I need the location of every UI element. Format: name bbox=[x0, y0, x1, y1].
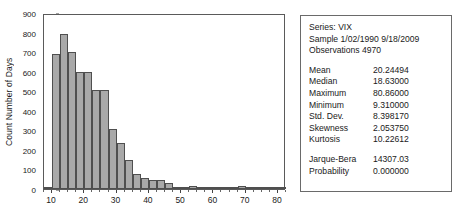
x-tick-mark bbox=[212, 190, 213, 193]
histogram-bar bbox=[52, 54, 60, 189]
y-tick-label: 100 bbox=[23, 166, 36, 175]
stat-value: 2.053750 bbox=[373, 123, 451, 135]
histogram-bar bbox=[100, 90, 108, 189]
x-tick-minor-mark bbox=[124, 190, 125, 192]
stat-value: 18.63000 bbox=[373, 76, 451, 88]
statistic-row: Minimum9.310000 bbox=[309, 100, 451, 112]
x-tick-minor-mark bbox=[75, 190, 76, 192]
histogram-figure: Count Number of Days 0100200300400500600… bbox=[0, 0, 460, 219]
chart-area: Count Number of Days 0100200300400500600… bbox=[0, 0, 292, 219]
series-label: Series: VIX bbox=[309, 22, 451, 34]
histogram-bar bbox=[230, 187, 238, 189]
y-tick-label: 0 bbox=[32, 186, 36, 195]
y-tick-label: 500 bbox=[23, 88, 36, 97]
spacer bbox=[309, 57, 451, 65]
spacer bbox=[309, 146, 451, 154]
x-tick-label: 20 bbox=[79, 195, 88, 205]
statistic-row: Skewness2.053750 bbox=[309, 123, 451, 135]
stat-key: Jarque-Bera bbox=[309, 154, 373, 166]
x-tick-minor-mark bbox=[253, 190, 254, 192]
x-tick-minor-mark bbox=[229, 190, 230, 192]
x-tick-label: 30 bbox=[111, 195, 120, 205]
histogram-bar bbox=[213, 187, 221, 189]
y-tick-label: 700 bbox=[23, 49, 36, 58]
histogram-bar bbox=[181, 187, 189, 189]
x-tick-label: 50 bbox=[175, 195, 184, 205]
histogram-bar bbox=[278, 187, 286, 189]
x-tick-label: 60 bbox=[208, 195, 217, 205]
y-tick-label: 300 bbox=[23, 127, 36, 136]
histogram-bar bbox=[197, 187, 205, 189]
stat-key: Kurtosis bbox=[309, 134, 373, 146]
y-tick-label: 200 bbox=[23, 146, 36, 155]
histogram-bar bbox=[165, 183, 173, 189]
stat-key: Median bbox=[309, 76, 373, 88]
x-tick-minor-mark bbox=[285, 190, 286, 192]
histogram-bar bbox=[262, 187, 270, 189]
x-tick-label: 10 bbox=[46, 195, 55, 205]
x-tick-minor-mark bbox=[99, 190, 100, 192]
histogram-bar bbox=[254, 187, 262, 189]
y-axis-label: Count Number of Days bbox=[2, 14, 16, 189]
x-tick-mark bbox=[116, 190, 117, 193]
test-statistic-row: Probability0.000000 bbox=[309, 166, 451, 178]
x-tick-minor-mark bbox=[164, 190, 165, 192]
stat-key: Probability bbox=[309, 166, 373, 178]
histogram-bar bbox=[221, 187, 229, 189]
x-tick-mark bbox=[148, 190, 149, 193]
x-tick-mark bbox=[180, 190, 181, 193]
x-tick-minor-mark bbox=[204, 190, 205, 192]
histogram-bar bbox=[141, 178, 149, 189]
y-tick-label: 400 bbox=[23, 107, 36, 116]
x-tick-minor-mark bbox=[43, 190, 44, 192]
x-tick-mark bbox=[245, 190, 246, 193]
test-statistic-row: Jarque-Bera14307.03 bbox=[309, 154, 451, 166]
x-tick-label: 70 bbox=[240, 195, 249, 205]
statistic-row: Std. Dev.8.398170 bbox=[309, 111, 451, 123]
histogram-bar bbox=[205, 187, 213, 189]
x-axis-ticks: 1020304050607080 bbox=[43, 190, 287, 216]
x-tick-minor-mark bbox=[108, 190, 109, 192]
stat-value: 20.24494 bbox=[373, 65, 451, 77]
histogram-bar bbox=[173, 187, 181, 189]
observations-label: Observations 4970 bbox=[309, 45, 451, 57]
x-tick-minor-mark bbox=[237, 190, 238, 192]
histogram-bars bbox=[44, 15, 284, 189]
statistic-row: Maximum80.86000 bbox=[309, 88, 451, 100]
stat-value: 80.86000 bbox=[373, 88, 451, 100]
histogram-bar bbox=[76, 72, 84, 189]
histogram-bar bbox=[92, 90, 100, 189]
statistic-row: Kurtosis10.22612 bbox=[309, 134, 451, 146]
x-tick-mark bbox=[83, 190, 84, 193]
histogram-bar bbox=[157, 180, 165, 189]
plot-frame bbox=[43, 14, 285, 190]
histogram-bar bbox=[189, 186, 197, 189]
stat-key: Std. Dev. bbox=[309, 111, 373, 123]
histogram-bar bbox=[125, 160, 133, 189]
statistic-row: Median18.63000 bbox=[309, 76, 451, 88]
stat-value: 9.310000 bbox=[373, 100, 451, 112]
histogram-bar bbox=[60, 34, 68, 189]
histogram-bar bbox=[117, 143, 125, 189]
stat-value: 0.000000 bbox=[373, 166, 451, 178]
x-tick-label: 80 bbox=[272, 195, 281, 205]
histogram-bar bbox=[270, 187, 278, 189]
stat-key: Mean bbox=[309, 65, 373, 77]
stat-key: Skewness bbox=[309, 123, 373, 135]
x-tick-mark bbox=[277, 190, 278, 193]
x-tick-minor-mark bbox=[172, 190, 173, 192]
x-tick-minor-mark bbox=[91, 190, 92, 192]
statistics-panel: Series: VIX Sample 1/02/1990 9/18/2009 O… bbox=[300, 15, 452, 192]
x-tick-minor-mark bbox=[140, 190, 141, 192]
histogram-bar bbox=[246, 187, 254, 189]
stat-value: 10.22612 bbox=[373, 134, 451, 146]
statistic-row: Mean20.24494 bbox=[309, 65, 451, 77]
x-tick-minor-mark bbox=[220, 190, 221, 192]
x-tick-minor-mark bbox=[188, 190, 189, 192]
x-tick-minor-mark bbox=[59, 190, 60, 192]
x-tick-minor-mark bbox=[67, 190, 68, 192]
histogram-bar bbox=[238, 186, 246, 189]
histogram-bar bbox=[109, 129, 117, 189]
histogram-bar bbox=[84, 72, 92, 189]
y-tick-label: 600 bbox=[23, 68, 36, 77]
